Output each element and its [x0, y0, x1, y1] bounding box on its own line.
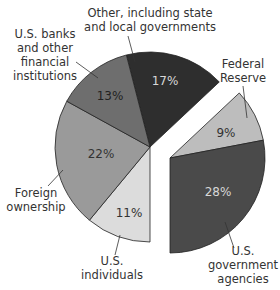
slice-value-fed: 9%	[216, 126, 235, 140]
svg-text:and local governments: and local governments	[84, 20, 216, 34]
svg-text:Federal: Federal	[222, 57, 264, 71]
svg-text:Other, including state: Other, including state	[87, 6, 212, 20]
svg-text:ownership: ownership	[6, 200, 65, 214]
svg-text:institutions: institutions	[13, 69, 77, 83]
label-foreign: Foreign ownership	[6, 186, 65, 214]
svg-text:agencies: agencies	[217, 272, 268, 286]
slice-value-foreign: 22%	[88, 147, 115, 161]
slice-value-individuals: 11%	[116, 206, 143, 220]
label-individuals: U.S. individuals	[81, 254, 143, 282]
svg-text:financial: financial	[21, 55, 70, 69]
label-fed: Federal Reserve	[220, 57, 266, 85]
label-banks: U.S. banks and other financial instituti…	[13, 27, 77, 83]
pie-chart: 17% 9% 28% 11% 22% 13% Other, including …	[0, 0, 280, 290]
svg-text:Reserve: Reserve	[220, 71, 266, 85]
svg-text:government: government	[208, 258, 279, 272]
svg-text:U.S.: U.S.	[231, 244, 254, 258]
label-agencies: U.S. government agencies	[208, 244, 279, 286]
label-other: Other, including state and local governm…	[84, 6, 216, 34]
slice-value-banks: 13%	[97, 89, 124, 103]
svg-text:U.S. banks: U.S. banks	[15, 27, 76, 41]
slice-value-other: 17%	[152, 74, 179, 88]
svg-text:Foreign: Foreign	[15, 186, 58, 200]
slice-value-agencies: 28%	[205, 185, 232, 199]
svg-text:and other: and other	[17, 41, 73, 55]
svg-text:U.S.: U.S.	[100, 254, 123, 268]
svg-text:individuals: individuals	[81, 268, 143, 282]
leader-line	[115, 235, 120, 255]
